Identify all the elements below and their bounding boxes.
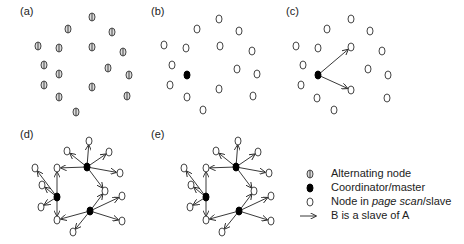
master-node-icon <box>54 193 60 201</box>
slave-link-arrow <box>210 212 236 219</box>
slave-link-arrow <box>238 154 254 165</box>
slave-link-arrow <box>210 167 233 168</box>
slave-node-icon <box>106 148 112 156</box>
slave-node-icon <box>54 164 60 172</box>
slave-link-arrow <box>44 199 54 205</box>
slave-node-icon <box>216 15 222 23</box>
slave-link-arrow <box>61 167 84 168</box>
slave-node-icon <box>250 92 256 100</box>
slave-node-icon <box>219 228 225 236</box>
slave-node-icon <box>348 86 354 94</box>
alternating-node-icon <box>41 81 47 89</box>
slave-node-icon <box>315 44 321 52</box>
slave-node-icon <box>203 164 209 172</box>
slave-link-arrow <box>87 145 88 164</box>
slave-node-icon <box>102 187 108 195</box>
alternating-node-icon <box>73 108 79 116</box>
alternating-node-icon <box>307 170 313 178</box>
alternating-node-icon <box>89 83 95 91</box>
slave-link-arrow <box>193 199 203 205</box>
slave-node-icon <box>86 137 92 145</box>
slave-node-icon <box>234 65 240 73</box>
panel-label-b: (b) <box>151 5 164 17</box>
panel-label-d: (d) <box>20 128 33 140</box>
slave-node-icon <box>331 106 337 114</box>
slave-node-icon <box>268 217 274 225</box>
bluetooth-topology-diagram <box>0 0 464 244</box>
panel-label-c: (c) <box>286 5 299 17</box>
alternating-node-icon <box>56 70 62 78</box>
alternating-node-icon <box>65 25 71 33</box>
alternating-node-icon <box>126 71 132 79</box>
slave-node-icon <box>298 81 304 89</box>
slave-link-arrow <box>92 194 103 208</box>
slave-node-icon <box>32 164 38 172</box>
slave-node-icon <box>188 181 194 189</box>
slave-node-icon <box>183 44 189 52</box>
slave-link-arrow <box>236 145 237 164</box>
slave-node-icon <box>266 169 272 177</box>
slave-node-icon <box>187 203 193 211</box>
master-node-icon <box>236 207 242 215</box>
slave-link-arrow <box>321 76 348 88</box>
slave-node-icon <box>348 15 354 23</box>
master-node-icon <box>184 71 190 79</box>
legend-label-slave: Node in page scan/slave <box>331 195 452 207</box>
slave-link-arrow <box>89 169 103 187</box>
slave-node-icon <box>236 27 242 35</box>
slave-node-icon <box>38 203 44 211</box>
slave-link-arrow <box>90 168 116 173</box>
slave-link-arrow <box>238 169 252 187</box>
slave-node-icon <box>255 148 261 156</box>
slave-link-arrow <box>70 153 85 165</box>
slave-node-icon <box>254 70 260 78</box>
slave-node-icon <box>348 43 354 51</box>
slave-link-arrow <box>219 153 234 165</box>
slave-node-icon <box>54 216 60 224</box>
slave-node-icon <box>184 93 190 101</box>
slave-node-icon <box>169 61 175 69</box>
slave-link-arrow <box>89 154 105 165</box>
slave-node-icon <box>117 169 123 177</box>
slave-link-arrow <box>93 198 119 210</box>
master-node-icon <box>87 207 93 215</box>
slave-node-icon <box>324 25 330 33</box>
slave-node-icon <box>300 61 306 69</box>
slave-node-icon <box>307 198 313 206</box>
slave-link-arrow <box>225 213 238 229</box>
slave-node-icon <box>161 41 167 49</box>
slave-link-arrow <box>241 194 252 208</box>
slave-node-icon <box>203 216 209 224</box>
legend-label-master: Coordinator/master <box>331 181 425 193</box>
slave-link-arrow <box>93 212 118 220</box>
slave-node-icon <box>70 228 76 236</box>
slave-link-arrow <box>76 213 89 229</box>
panel-label-e: (e) <box>151 128 164 140</box>
slave-link-arrow <box>242 212 267 220</box>
slave-node-icon <box>181 164 187 172</box>
slave-node-icon <box>194 25 200 33</box>
panel-label-a: (a) <box>20 5 33 17</box>
master-node-icon <box>307 184 313 192</box>
slave-node-icon <box>119 192 125 200</box>
slave-node-icon <box>384 94 390 102</box>
slave-node-icon <box>200 106 206 114</box>
alternating-node-icon <box>109 28 115 36</box>
slave-node-icon <box>119 217 125 225</box>
legend-label-arrow: B is a slave of A <box>331 209 409 221</box>
master-node-icon <box>233 163 239 171</box>
slave-link-arrow <box>239 168 265 173</box>
slave-node-icon <box>235 137 241 145</box>
slave-node-icon <box>249 47 255 55</box>
slave-node-icon <box>213 147 219 155</box>
slave-link-arrow <box>242 198 268 210</box>
alternating-node-icon <box>124 92 130 100</box>
master-node-icon <box>203 193 209 201</box>
slave-node-icon <box>167 81 173 89</box>
master-node-icon <box>84 163 90 171</box>
alternating-node-icon <box>105 64 111 72</box>
slave-node-icon <box>365 65 371 73</box>
slave-node-icon <box>217 42 223 50</box>
slave-node-icon <box>251 187 257 195</box>
master-node-icon <box>315 71 321 79</box>
